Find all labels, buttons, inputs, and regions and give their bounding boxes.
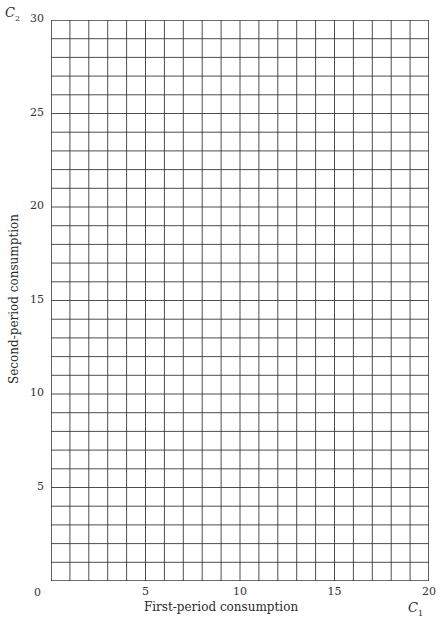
x-axis-label: First-period consumption — [0, 600, 442, 614]
y-tick-label: 20 — [22, 199, 44, 212]
x-tick-label: 10 — [228, 585, 252, 598]
y-tick-label: 25 — [22, 106, 44, 119]
chart-grid — [51, 20, 429, 581]
y-axis-label: Second-period consumption — [7, 209, 21, 389]
x-tick-label: 5 — [134, 585, 158, 598]
origin-label: 0 — [34, 586, 41, 599]
y-axis-variable: C2 — [5, 5, 20, 23]
x-tick-label: 20 — [417, 585, 441, 598]
y-tick-label: 5 — [22, 480, 44, 493]
y-tick-label: 15 — [22, 293, 44, 306]
x-tick-label: 15 — [323, 585, 347, 598]
x-axis-variable: C1 — [408, 600, 423, 618]
y-tick-label: 10 — [22, 386, 44, 399]
y-tick-label: 30 — [22, 12, 44, 25]
